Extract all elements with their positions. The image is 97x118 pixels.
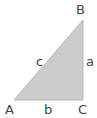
- side-label-c: c: [36, 54, 43, 69]
- vertex-label-c: C: [78, 102, 87, 117]
- triangle-diagram: B A C b c a: [0, 0, 97, 118]
- side-label-a: a: [86, 54, 94, 69]
- vertex-label-a: A: [5, 102, 14, 117]
- vertex-label-b: B: [76, 2, 85, 17]
- side-label-b: b: [44, 102, 52, 117]
- right-triangle-shape: [14, 20, 83, 100]
